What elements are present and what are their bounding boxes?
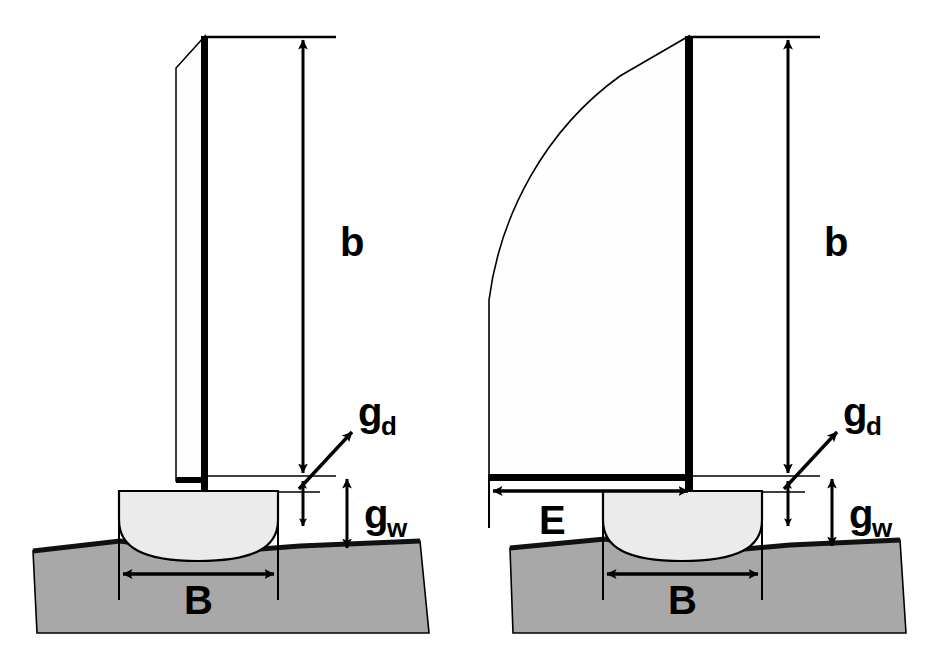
label-B-left: B xyxy=(184,578,213,622)
sail-right xyxy=(489,36,689,478)
label-gw-sub-left: w xyxy=(386,513,408,543)
label-b-left: b xyxy=(340,220,364,264)
panel-right: b g d g w B E xyxy=(489,36,906,633)
label-E-right: E xyxy=(539,498,566,542)
dimension-arrow-gd-left[interactable] xyxy=(299,432,352,489)
hull-left xyxy=(119,491,278,561)
label-gw-right: g xyxy=(849,492,873,536)
sail-left xyxy=(176,36,205,481)
label-b-right: b xyxy=(824,220,848,264)
mast-right xyxy=(685,36,693,491)
label-gd-sub-right: d xyxy=(866,411,882,441)
diagram-canvas: b g d g w B xyxy=(0,0,926,663)
panel-left: b g d g w B xyxy=(33,36,429,633)
label-B-right: B xyxy=(668,578,697,622)
label-gd-left: g xyxy=(358,390,382,434)
label-gw-left: g xyxy=(364,492,388,536)
label-gw-sub-right: w xyxy=(871,513,893,543)
sailboat-dimension-diagram: b g d g w B xyxy=(0,0,926,663)
dimension-arrow-gd-right[interactable] xyxy=(784,432,837,489)
mast-left xyxy=(201,36,208,491)
label-gd-right: g xyxy=(843,390,867,434)
boom-right xyxy=(489,474,692,481)
hull-right xyxy=(603,491,762,561)
label-gd-sub-left: d xyxy=(381,411,397,441)
